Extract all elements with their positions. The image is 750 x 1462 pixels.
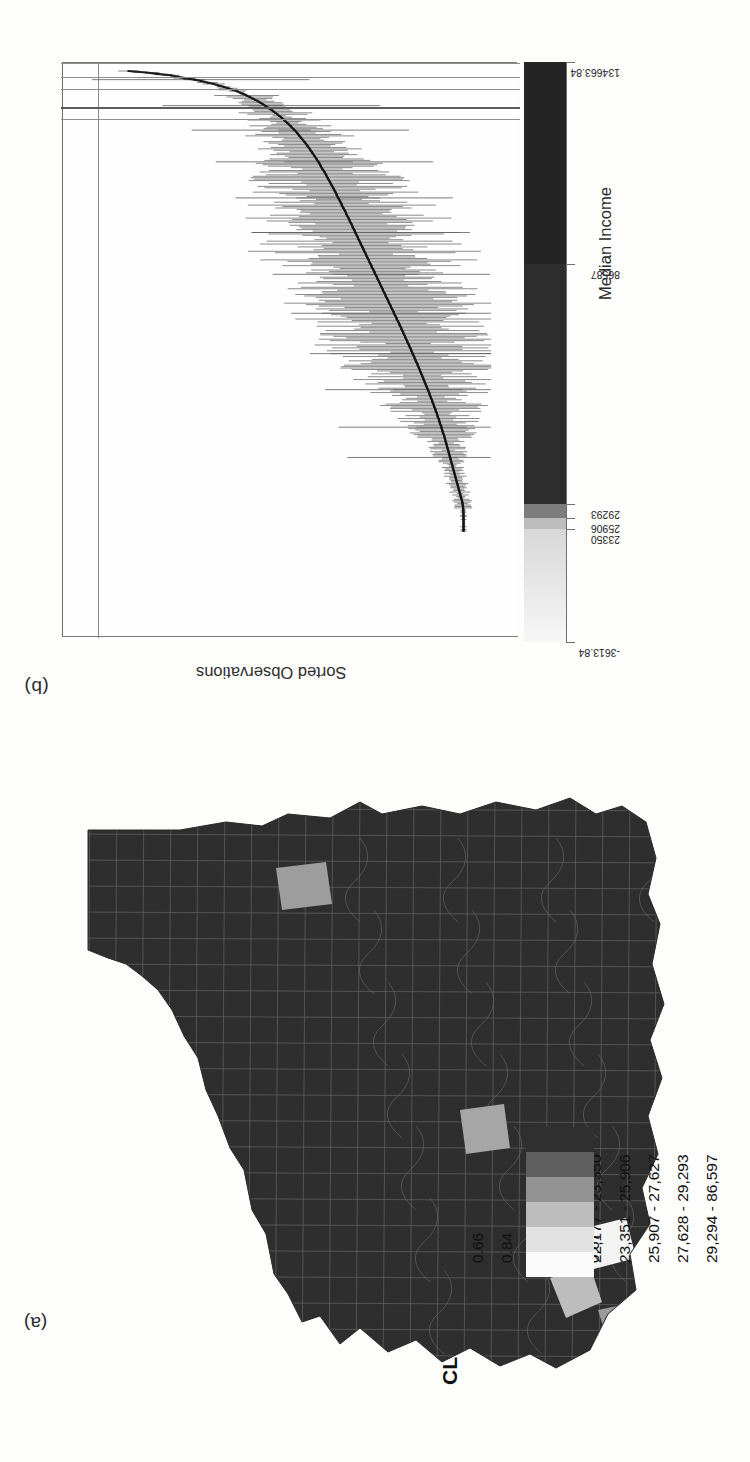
reference-line-5 bbox=[61, 119, 520, 120]
legend-swatch bbox=[526, 1152, 594, 1177]
error-bar-canvas bbox=[63, 63, 518, 638]
plot-frame bbox=[62, 62, 517, 637]
legend-cl-value: 0.66 bbox=[469, 1233, 487, 1263]
colour-ramp-tick-label: -3613.84 bbox=[579, 647, 620, 659]
legend-swatch bbox=[526, 1202, 594, 1227]
legend-swatch bbox=[526, 1127, 594, 1152]
colour-ramp-tick bbox=[566, 504, 575, 505]
colour-ramp-title: Median Income bbox=[596, 187, 615, 300]
legend-swatch bbox=[526, 1227, 594, 1252]
x-axis-title: Sorted Observations bbox=[196, 663, 346, 682]
reference-line-2 bbox=[61, 77, 520, 78]
colour-ramp-tick-label: 134663.84 bbox=[570, 67, 620, 79]
colour-ramp-tick-label: 29293 bbox=[591, 509, 620, 521]
colour-ramp-tick-label: 23350 bbox=[591, 534, 620, 546]
colour-ramp-segment bbox=[524, 518, 566, 529]
colour-ramp-segment bbox=[524, 62, 566, 264]
colour-ramp-tick bbox=[566, 518, 575, 519]
legend-estimate-value: 29,294 - 86,597 bbox=[703, 1154, 721, 1263]
reference-line-4 bbox=[61, 107, 520, 109]
colour-ramp-tick-label: 25906 bbox=[591, 523, 620, 535]
legend-cl-value: 0.84 bbox=[498, 1233, 516, 1263]
panel-b-error-bar-plot: (b) Sorted Observations -3613.8423350259… bbox=[0, 0, 750, 730]
colour-ramp-segment bbox=[524, 264, 566, 504]
reference-line-3 bbox=[61, 89, 520, 90]
colour-ramp-tick bbox=[566, 62, 575, 63]
colour-ramp-tick bbox=[566, 529, 575, 530]
error-bar-series bbox=[63, 63, 518, 638]
figure-canvas: (b) Sorted Observations -3613.8423350259… bbox=[0, 0, 750, 1462]
legend-swatch bbox=[526, 1177, 594, 1202]
legend-estimate-value: 27,628 - 29,293 bbox=[674, 1154, 692, 1263]
legend-swatch bbox=[526, 1252, 594, 1277]
map-legend: EstimateCL22,17622,177 - 23,3500.6623,35… bbox=[430, 1095, 720, 1445]
county-highlight-southwest bbox=[226, 1312, 288, 1366]
panel-b-label: (b) bbox=[24, 676, 49, 698]
colour-ramp-tick bbox=[566, 264, 575, 265]
reference-line-1 bbox=[61, 63, 520, 64]
colour-ramp-segment bbox=[524, 529, 566, 642]
legend-estimate-value: 25,907 - 27,627 bbox=[645, 1154, 663, 1263]
colour-ramp-segment bbox=[524, 504, 566, 518]
legend-estimate-value: 23,351 - 25,906 bbox=[616, 1154, 634, 1263]
legend-cl-header: CL bbox=[438, 1357, 462, 1385]
colour-ramp-group: -3613.8423350259062929386587134663.84 bbox=[524, 62, 566, 642]
colour-ramp bbox=[524, 62, 566, 642]
county-highlight-north bbox=[276, 862, 332, 910]
colour-ramp-axis bbox=[566, 62, 567, 642]
colour-ramp-tick bbox=[566, 642, 575, 643]
map-legend-grid: EstimateCL22,17622,177 - 23,3500.6623,35… bbox=[430, 1095, 720, 1445]
